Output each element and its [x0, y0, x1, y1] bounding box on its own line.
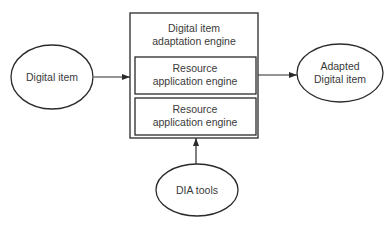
node-adaptation-engine: Digital item adaptation engine Resource …: [130, 13, 258, 138]
node-label: Digital item: [26, 71, 78, 83]
resource1-line2: application engine: [153, 75, 238, 87]
node-digital-item: Digital item: [11, 45, 93, 109]
node-dia-tools: DIA tools: [156, 164, 238, 216]
engine-title-line1: Digital item: [168, 22, 220, 34]
node-resource-engine-2: Resource application engine: [135, 98, 256, 135]
engine-title-line2: adaptation engine: [152, 35, 236, 47]
node-adapted-digital-item: Adapted Digital item: [297, 44, 383, 102]
output-line2: Digital item: [314, 73, 366, 85]
diagram-canvas: Digital item Digital item adaptation eng…: [0, 0, 389, 227]
node-resource-engine-1: Resource application engine: [135, 57, 256, 94]
resource2-line1: Resource: [173, 103, 218, 115]
tools-label: DIA tools: [176, 184, 218, 196]
resource1-line1: Resource: [173, 62, 218, 74]
output-line1: Adapted: [320, 60, 359, 72]
resource2-line2: application engine: [153, 116, 238, 128]
